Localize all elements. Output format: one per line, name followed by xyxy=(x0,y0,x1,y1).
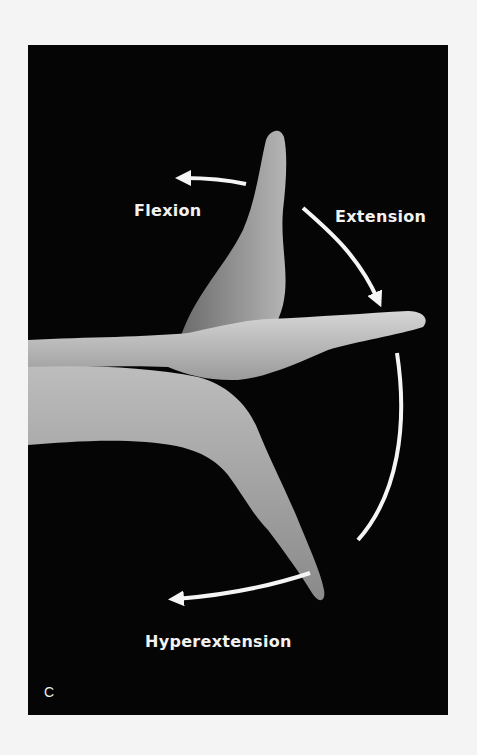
hands-illustration xyxy=(28,45,448,715)
wrist-motion-photo: Flexion Extension Hyperextension C xyxy=(28,45,448,715)
hyperextended-hand xyxy=(28,366,324,600)
flexion-arrow xyxy=(183,178,246,184)
flexed-hand xyxy=(178,131,286,350)
hyperextension-label: Hyperextension xyxy=(145,632,292,651)
hyperextension-arc xyxy=(358,353,401,540)
extension-label: Extension xyxy=(335,207,426,226)
panel-letter: C xyxy=(44,684,54,700)
flexion-label: Flexion xyxy=(134,201,202,220)
hyperextension-arrow xyxy=(176,573,310,599)
